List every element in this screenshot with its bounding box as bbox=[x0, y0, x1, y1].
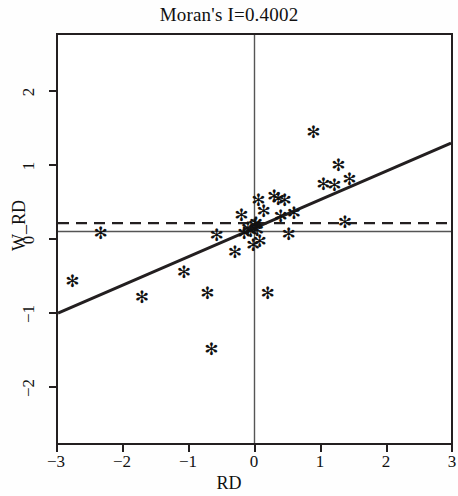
x-tick-mark bbox=[122, 445, 124, 452]
data-point-marker: ✻ bbox=[342, 169, 356, 189]
data-point-marker: ✻ bbox=[93, 223, 107, 243]
x-tick-label: −2 bbox=[107, 452, 137, 472]
y-tick-label: −1 bbox=[19, 299, 39, 329]
y-tick-label: −2 bbox=[19, 373, 39, 403]
data-point-marker: ✻ bbox=[65, 271, 79, 291]
data-point-marker: ✻ bbox=[135, 287, 149, 307]
y-tick-label: 1 bbox=[19, 151, 39, 181]
y-tick-mark bbox=[49, 312, 56, 314]
x-tick-label: 0 bbox=[239, 452, 269, 472]
data-points-group: ✻✻✻✻✻✻✻✻✻✻✻✻✻✻✻✻✻✻✻✻✻✻✻✻✻✻✻✻✻✻✻✻ bbox=[65, 122, 356, 359]
data-point-marker: ✻ bbox=[260, 283, 274, 303]
plot-canvas: ✻✻✻✻✻✻✻✻✻✻✻✻✻✻✻✻✻✻✻✻✻✻✻✻✻✻✻✻✻✻✻✻ bbox=[58, 35, 451, 443]
data-point-marker: ✻ bbox=[253, 231, 267, 251]
x-tick-mark bbox=[386, 445, 388, 452]
x-tick-label: 3 bbox=[437, 452, 458, 472]
y-tick-label: 2 bbox=[19, 77, 39, 107]
x-tick-label: 1 bbox=[305, 452, 335, 472]
x-tick-label: 2 bbox=[371, 452, 401, 472]
data-point-marker: ✻ bbox=[177, 262, 191, 282]
y-tick-mark bbox=[49, 90, 56, 92]
data-point-marker: ✻ bbox=[204, 339, 218, 359]
chart-title: Moran's I=0.4002 bbox=[0, 4, 458, 26]
y-axis-label: W_RD bbox=[9, 181, 30, 271]
y-tick-mark bbox=[49, 164, 56, 166]
moran-scatterplot-figure: Moran's I=0.4002 ✻✻✻✻✻✻✻✻✻✻✻✻✻✻✻✻✻✻✻✻✻✻✻… bbox=[0, 0, 458, 496]
x-tick-mark bbox=[320, 445, 322, 452]
y-tick-mark bbox=[49, 386, 56, 388]
plot-area: ✻✻✻✻✻✻✻✻✻✻✻✻✻✻✻✻✻✻✻✻✻✻✻✻✻✻✻✻✻✻✻✻ bbox=[56, 33, 453, 445]
data-point-marker: ✻ bbox=[200, 283, 214, 303]
data-point-marker: ✻ bbox=[228, 242, 242, 262]
x-tick-label: −3 bbox=[41, 452, 71, 472]
x-axis-label: RD bbox=[0, 473, 458, 494]
x-tick-mark bbox=[254, 445, 256, 452]
data-point-marker: ✻ bbox=[287, 203, 301, 223]
x-tick-mark bbox=[56, 445, 58, 452]
data-point-marker: ✻ bbox=[209, 225, 223, 245]
data-point-marker: ✻ bbox=[338, 212, 352, 232]
x-tick-mark bbox=[451, 445, 453, 452]
x-tick-mark bbox=[188, 445, 190, 452]
x-tick-label: −1 bbox=[173, 452, 203, 472]
y-tick-mark bbox=[49, 238, 56, 240]
data-point-marker: ✻ bbox=[306, 122, 320, 142]
data-point-marker: ✻ bbox=[327, 175, 341, 195]
data-point-marker: ✻ bbox=[281, 224, 295, 244]
